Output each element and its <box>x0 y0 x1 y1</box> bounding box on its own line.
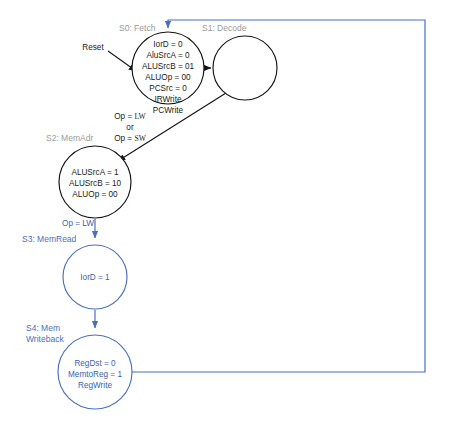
state-s0-line-4: PCSrc = 0 <box>149 84 187 93</box>
state-s0-line-0: IorD = 0 <box>153 40 183 49</box>
edge-label-or: or <box>126 123 134 132</box>
state-s4-line-1: MemtoReg = 1 <box>68 370 122 379</box>
state-label-s3: S3: MemRead <box>22 234 77 244</box>
edge-label-op-prefix-1: Op = <box>114 112 134 121</box>
state-label-s0: S0: Fetch <box>119 23 156 33</box>
state-s0-line-2: ALUSrcB = 01 <box>142 62 195 71</box>
edge-label-op-lw-value: LW <box>135 112 147 121</box>
state-label-s2: S2: MemAdr <box>46 133 93 143</box>
state-label-s4-line2: Writeback <box>26 334 64 344</box>
edge-label-op-lw-blue: Op = LW <box>62 219 94 228</box>
state-label-s1: S1: Decode <box>202 23 247 33</box>
state-s0-line-6: PCWrite <box>153 106 184 115</box>
edge-label-op-sw-value: SW <box>134 134 146 143</box>
state-circle-s1[interactable] <box>213 36 277 100</box>
state-s2-line-2: ALUOp = 00 <box>72 190 118 199</box>
edge-label-reset: Reset <box>82 43 104 52</box>
state-machine-diagram: Reset Op = LW or Op = SW Op = LW S0: Fet… <box>0 0 451 425</box>
state-s0-line-5: IRWrite <box>155 95 182 104</box>
state-s0-line-3: ALUOp = 00 <box>145 73 191 82</box>
state-s4-line-2: RegWrite <box>78 381 112 390</box>
edge-label-op-sw: Op = SW <box>114 134 146 143</box>
state-s0-line-1: AluSrcA = 0 <box>146 51 189 60</box>
state-s4-line-0: RegDst = 0 <box>74 359 116 368</box>
edge-label-op-prefix-2: Op = <box>114 134 134 143</box>
state-s3-line-0: IorD = 1 <box>80 273 110 282</box>
diagram-canvas: Reset Op = LW or Op = SW Op = LW S0: Fet… <box>0 0 451 425</box>
state-s2-line-0: ALUSrcA = 1 <box>71 168 119 177</box>
state-s2-line-1: ALUSrcB = 10 <box>69 179 122 188</box>
state-label-s4-line1: S4: Mem <box>26 323 60 333</box>
edge-label-op-lw: Op = LW <box>114 112 146 121</box>
